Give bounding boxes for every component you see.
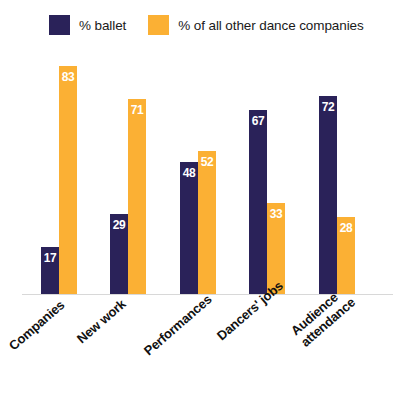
x-axis-label: Companies	[6, 297, 67, 353]
bar-value-label: 33	[267, 207, 285, 221]
bar-ballet: 48	[180, 162, 198, 294]
bar-value-label: 67	[249, 114, 267, 128]
bar-value-label: 17	[41, 251, 59, 265]
x-axis-label-line: New work	[74, 296, 128, 346]
bar-value-label: 52	[198, 155, 216, 169]
bar-ballet: 72	[319, 96, 337, 294]
x-axis-label-line: Performances	[141, 292, 214, 359]
x-axis-labels: CompaniesNew workPerformancesDancers' jo…	[0, 295, 405, 397]
bar-other: 52	[198, 151, 216, 294]
bar-value-label: 48	[180, 166, 198, 180]
bar-other: 28	[337, 217, 355, 294]
bar-value-label: 29	[110, 218, 128, 232]
legend-label-other: % of all other dance companies	[178, 18, 363, 33]
x-axis-label: Performances	[141, 292, 214, 359]
bar-ballet: 17	[41, 247, 59, 294]
bar-other: 71	[128, 99, 146, 294]
bar-value-label: 28	[337, 221, 355, 235]
legend-label-ballet: % ballet	[79, 18, 126, 33]
bar-value-label: 71	[128, 103, 146, 117]
legend-swatch-ballet	[49, 15, 70, 35]
bar-value-label: 72	[319, 100, 337, 114]
bar-ballet: 67	[249, 110, 267, 294]
legend-swatch-other	[148, 15, 169, 35]
bar-other: 83	[59, 66, 77, 294]
chart-legend: % ballet % of all other dance companies	[0, 12, 405, 38]
chart-plot-area: 17832971485267337228	[0, 46, 405, 295]
legend-item-ballet: % ballet	[49, 15, 126, 35]
bar-value-label: 83	[59, 70, 77, 84]
bar-ballet: 29	[110, 214, 128, 294]
x-axis-label-line: Companies	[6, 297, 67, 353]
legend-item-other: % of all other dance companies	[148, 15, 363, 35]
x-axis-label: New work	[74, 296, 128, 346]
